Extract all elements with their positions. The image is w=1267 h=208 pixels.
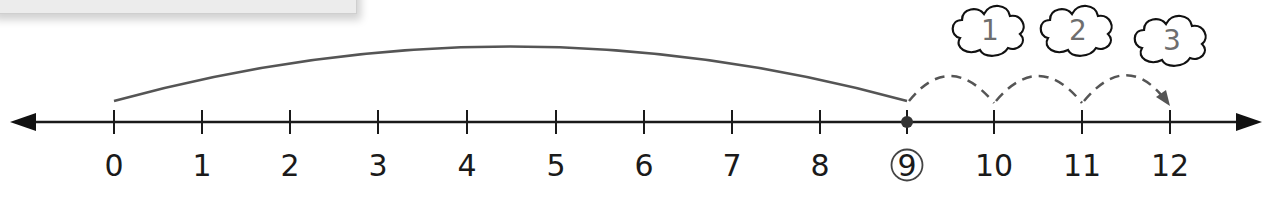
right-arrow-icon [1236, 113, 1262, 131]
tick-label-2: 2 [280, 148, 299, 183]
cloud-label-1: 1 [981, 14, 999, 47]
tick-label-7: 7 [722, 148, 741, 183]
left-arrow-icon [10, 113, 36, 131]
tick-label-5: 5 [546, 148, 565, 183]
hop-10-to-11 [996, 76, 1082, 103]
jump-arc-0-to-9 [114, 47, 907, 102]
tick-label-12: 12 [1151, 148, 1189, 183]
dashed-hops [909, 75, 1170, 106]
tick-label-10: 10 [975, 148, 1013, 183]
number-line-diagram: 0123456789101112 1 2 3 [0, 0, 1267, 208]
hop-11-to-12 [1084, 75, 1162, 101]
tick-label-4: 4 [457, 148, 476, 183]
count-clouds: 1 2 3 [953, 6, 1206, 66]
tick-label-0: 0 [104, 148, 123, 183]
hop-9-to-10 [909, 76, 994, 103]
tick-label-9: 9 [897, 148, 916, 183]
tick-label-8: 8 [810, 148, 829, 183]
cloud-label-2: 2 [1069, 14, 1087, 47]
tick-label-6: 6 [634, 148, 653, 183]
point-marker-9 [901, 116, 913, 128]
cloud-2: 2 [1041, 6, 1112, 56]
tick-label-3: 3 [368, 148, 387, 183]
cloud-label-3: 3 [1163, 24, 1181, 57]
cloud-1: 1 [953, 6, 1024, 56]
tick-label-1: 1 [192, 148, 211, 183]
tick-label-11: 11 [1063, 148, 1101, 183]
cloud-3: 3 [1135, 16, 1206, 66]
tick-labels: 0123456789101112 [104, 148, 1189, 183]
